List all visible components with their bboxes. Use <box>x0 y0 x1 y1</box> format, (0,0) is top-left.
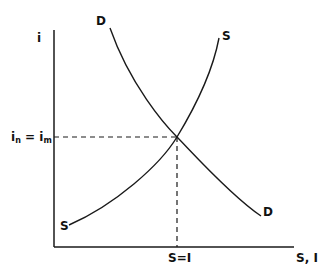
equilibrium-quantity-label: S=I <box>168 251 191 265</box>
demand-label-top: D <box>96 14 106 28</box>
supply-label-bottom: S <box>60 219 69 233</box>
demand-label-bottom: D <box>263 205 273 219</box>
x-axis-label: S, I <box>296 251 318 265</box>
savings-investment-diagram: i D S S D in = im S=I S, I <box>0 0 322 274</box>
y-axis-label: i <box>37 31 41 45</box>
supply-curve <box>69 38 219 225</box>
supply-label-top: S <box>222 29 231 43</box>
equilibrium-rate-label: in = im <box>11 130 52 145</box>
